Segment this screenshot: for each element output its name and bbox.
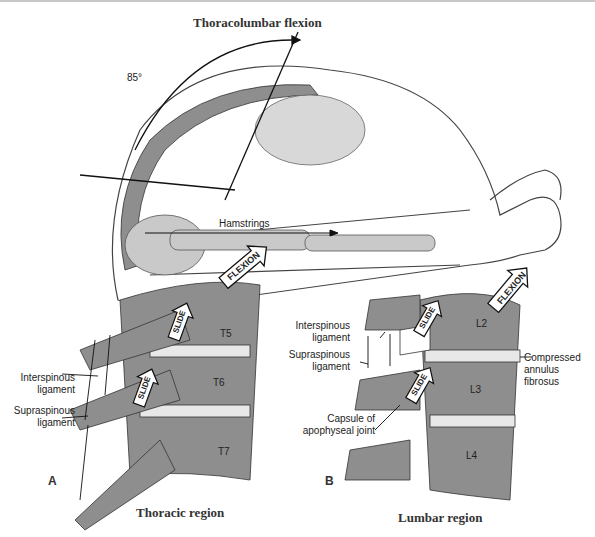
interspinous-ligament-label-a: Interspinous ligament — [5, 372, 75, 396]
supraspinous-ligament-label-a: Supraspinous ligament — [5, 405, 75, 429]
anatomy-illustration — [0, 0, 595, 537]
panel-a-letter: A — [48, 475, 57, 487]
capsule-label: Capsule of apophyseal joint — [275, 413, 375, 437]
vertebra-t6: T6 — [213, 377, 225, 389]
supraspinous-ligament-label-b: Supraspinous ligament — [280, 349, 350, 373]
annulus-label: Compressed annulus fibrosus — [524, 352, 581, 388]
vertebra-l2: L2 — [476, 318, 487, 330]
panel-a-caption: Thoracic region — [136, 507, 224, 519]
angle-label: 85° — [127, 72, 142, 84]
interspinous-ligament-label-b: Interspinous ligament — [280, 320, 350, 344]
vertebra-l3: L3 — [470, 384, 481, 396]
panel-b-caption: Lumbar region — [398, 512, 482, 524]
rib-cage — [255, 95, 365, 165]
vertebra-t5: T5 — [220, 328, 232, 340]
vertebra-l4: L4 — [466, 450, 477, 462]
hip-bones — [125, 215, 435, 275]
thoracic-vertebrae — [70, 282, 260, 530]
figure-title: Thoracolumbar flexion — [193, 17, 322, 29]
hamstrings-label: Hamstrings — [219, 218, 270, 230]
vertebra-t7: T7 — [218, 446, 230, 458]
panel-b-letter: B — [325, 475, 334, 487]
lumbar-vertebrae — [345, 294, 520, 500]
